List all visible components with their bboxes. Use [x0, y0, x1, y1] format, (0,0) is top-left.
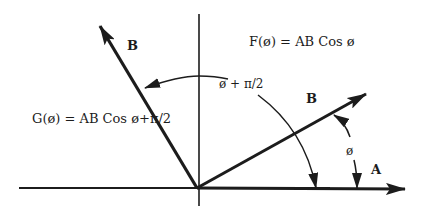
vector-b-rotated-arrow: [100, 26, 197, 188]
vector-a-arrow: [197, 188, 405, 189]
arc-phi-lower: [354, 160, 357, 188]
equation-g: G(ø) = AB Cos ø+π/2: [32, 112, 171, 125]
arc-phi-plus-half-pi-right: [258, 95, 316, 188]
arc-phi-plus-half-pi: [145, 76, 199, 88]
arc-phi-upper: [334, 115, 350, 137]
vector-b-rotated-label: B: [127, 39, 138, 52]
angle-phi-plus-half-pi-label: ø + π/2: [219, 78, 263, 90]
vector-b-label: B: [306, 92, 317, 105]
vector-a-label: A: [371, 163, 381, 176]
vector-diagram: [0, 0, 426, 219]
angle-phi-label: ø: [346, 145, 353, 157]
equation-f: F(ø) = AB Cos ø: [249, 35, 355, 48]
vector-b-arrow: [197, 94, 366, 188]
